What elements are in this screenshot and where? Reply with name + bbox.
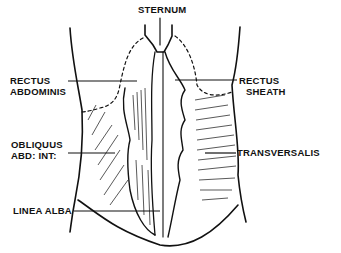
label-obliquus-line2: ABD: INT: <box>11 150 57 161</box>
label-rectus-abdominis-line1: RECTUS <box>10 75 50 86</box>
sternum-outline <box>145 25 172 52</box>
lower-abdomen-outline <box>78 200 238 246</box>
label-linea-alba: LINEA ALBA <box>13 205 72 216</box>
right-torso-outline <box>232 27 246 222</box>
label-transversalis: TRANSVERSALIS <box>237 147 320 158</box>
label-rectus-abdominis-line2: ABDOMINIS <box>10 86 66 97</box>
label-rectus-sheath-line1: RECTUS <box>239 75 279 86</box>
label-rectus-sheath-line2: SHEATH <box>246 86 286 97</box>
label-sternum: STERNUM <box>138 4 186 15</box>
label-obliquus-line1: OBLIQUUS <box>11 139 63 150</box>
abdominal-wall-diagram: STERNUM RECTUS ABDOMINIS RECTUS SHEATH O… <box>0 0 341 253</box>
